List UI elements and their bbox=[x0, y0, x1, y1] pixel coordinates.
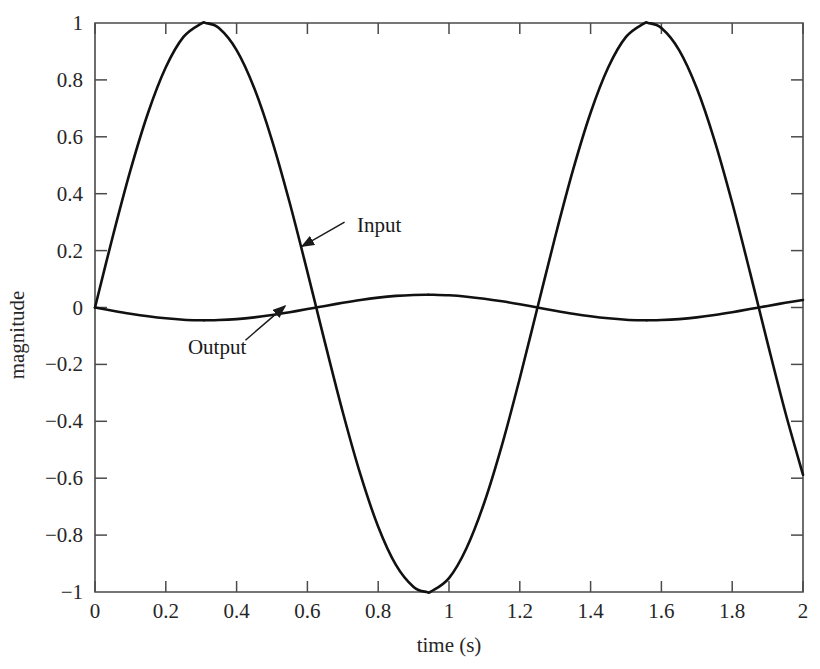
x-tick-label: 0.2 bbox=[153, 599, 179, 623]
x-tick-label: 2 bbox=[798, 599, 809, 623]
x-tick-label: 1.2 bbox=[507, 599, 533, 623]
y-tick-label: −0.8 bbox=[45, 523, 83, 547]
x-tick-label: 1 bbox=[444, 599, 455, 623]
chart-canvas: 00.20.40.60.811.21.41.61.82 −1−0.8−0.6−0… bbox=[0, 0, 820, 669]
y-tick-label: −0.2 bbox=[45, 352, 83, 376]
y-axis-title: magnitude bbox=[5, 291, 29, 380]
y-tick-label: 0.8 bbox=[57, 68, 83, 92]
x-tick-label: 0.8 bbox=[365, 599, 391, 623]
x-tick-label: 0 bbox=[90, 599, 101, 623]
output-annotation-label: Output bbox=[188, 335, 247, 359]
x-tick-label: 0.6 bbox=[294, 599, 320, 623]
x-tick-label: 1.6 bbox=[648, 599, 674, 623]
chart-background bbox=[0, 0, 820, 669]
figure-container: 00.20.40.60.811.21.41.61.82 −1−0.8−0.6−0… bbox=[0, 0, 820, 669]
input-annotation-label: Input bbox=[357, 213, 401, 237]
x-tick-label: 1.8 bbox=[719, 599, 745, 623]
x-tick-label: 0.4 bbox=[223, 599, 250, 623]
y-tick-label: −0.4 bbox=[45, 409, 84, 433]
y-tick-label: −1 bbox=[61, 580, 83, 604]
y-tick-label: 0.4 bbox=[57, 182, 84, 206]
x-axis-title: time (s) bbox=[417, 633, 482, 657]
y-tick-label: 0.2 bbox=[57, 239, 83, 263]
y-tick-label: 0 bbox=[73, 296, 84, 320]
x-tick-label: 1.4 bbox=[577, 599, 604, 623]
y-tick-label: −0.6 bbox=[45, 466, 83, 490]
y-tick-label: 1 bbox=[73, 11, 84, 35]
y-tick-label: 0.6 bbox=[57, 125, 83, 149]
